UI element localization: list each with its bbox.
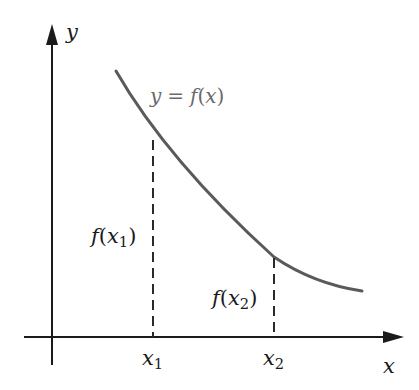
y-axis-arrow-icon [46,24,58,45]
x-axis-label-text: x [383,354,395,378]
f-x2-label: f(x2) [212,288,257,312]
f-x2-sub: 2 [240,295,249,312]
f-x2-close-paren: ) [249,286,257,310]
x-axis-label: x [383,356,395,377]
y-axis-label-text: y [66,20,78,44]
x-axis-arrow-icon [383,331,404,343]
f-x2-open-paren: ( [220,286,228,310]
f-x1-sub: 1 [119,233,128,250]
x1-tick-sub: 1 [154,355,163,372]
f-x2-fn: f [212,286,220,310]
y-axis-label: y [66,22,78,43]
x2-tick-sub: 2 [275,355,284,372]
x1-tick-base: x [142,346,154,370]
x1-tick-label: x1 [142,348,163,372]
f-x1-close-paren: ) [128,224,136,248]
curve-label-close-paren: ) [217,84,225,108]
diagram-graphic [0,0,419,390]
x2-tick-label: x2 [263,348,284,372]
x2-tick-base: x [263,346,275,370]
curve-label-equals: = [161,84,190,108]
curve-label: y=f(x) [150,86,224,106]
f-x2-base: x [228,286,240,310]
f-x1-base: x [107,224,119,248]
curve-label-lhs: y [150,84,161,108]
f-x1-open-paren: ( [99,224,107,248]
decreasing-function-diagram: y x y=f(x) f(x1) f(x2) x1 x2 [0,0,419,390]
f-x1-label: f(x1) [91,226,136,250]
curve-label-arg: x [205,84,216,108]
f-x1-fn: f [91,224,99,248]
